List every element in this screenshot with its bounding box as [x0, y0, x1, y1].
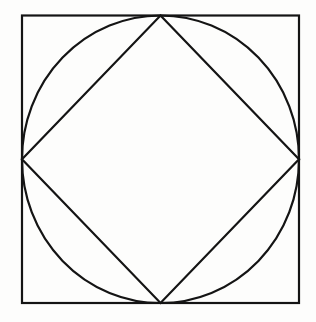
inner-diamond [22, 16, 299, 304]
inscribed-circle [22, 16, 299, 304]
figure-svg [0, 0, 316, 322]
geometric-figure-canvas [0, 0, 316, 322]
outer-square [22, 16, 299, 304]
